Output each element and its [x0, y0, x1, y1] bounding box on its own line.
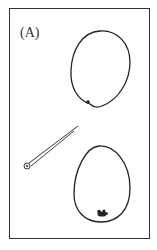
micropipette — [29, 126, 78, 163]
diagram-canvas — [0, 0, 157, 250]
upper-egg-outline — [71, 31, 130, 107]
micropipette-edge — [31, 131, 74, 166]
micropipette-tip-inner — [26, 165, 28, 167]
lower-egg-outline — [74, 146, 130, 222]
lower-egg-cluster — [97, 209, 108, 216]
upper-egg-dot — [86, 100, 90, 104]
